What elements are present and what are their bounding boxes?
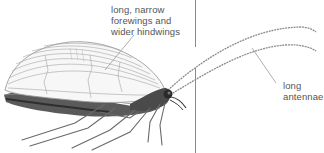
antennae-leader-line — [252, 48, 276, 83]
forewing-drawing — [5, 42, 166, 103]
antennae-label: long antennae — [283, 80, 323, 102]
wings-label: long, narrow forewings and wider hindwin… — [111, 4, 180, 37]
diagram-stage: long, narrow forewings and wider hindwin… — [0, 0, 324, 153]
